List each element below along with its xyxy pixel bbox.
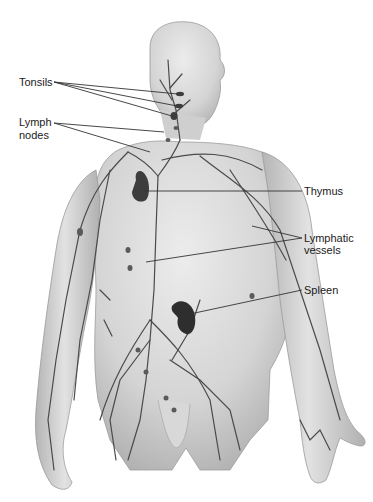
label-lymphatic-vessels-line2: vessels: [304, 244, 341, 256]
label-lymphatic-vessels-line1: Lymphatic: [304, 232, 354, 244]
label-thymus: Thymus: [304, 185, 343, 197]
lymph-nodes-leader-1: [54, 123, 164, 132]
label-spleen: Spleen: [304, 284, 338, 296]
label-lymph-nodes-line1: Lymph: [19, 116, 52, 128]
label-tonsils: Tonsils: [19, 76, 53, 88]
label-lymph-nodes-line2: nodes: [19, 129, 49, 141]
